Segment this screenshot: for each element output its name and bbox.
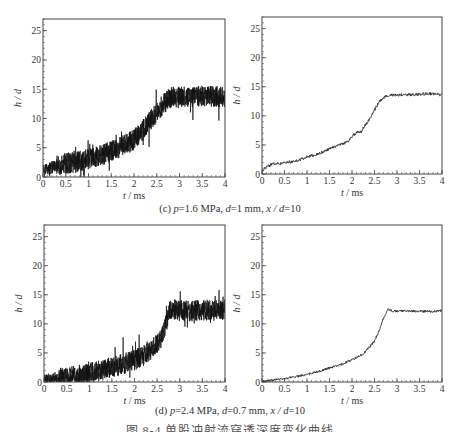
- x-tick-label: 2: [132, 179, 137, 189]
- plot-frame: [262, 225, 442, 382]
- y-tick-label: 5: [36, 143, 41, 153]
- chart-c-filtered: 00.511.522.533.540510152025t / msh / d: [230, 0, 460, 200]
- y-tick-label: 20: [33, 261, 43, 271]
- x-axis-label: t / ms: [123, 190, 145, 200]
- caption-c-p-value: =1.6 MPa,: [179, 203, 226, 214]
- y-tick-label: 25: [251, 232, 261, 242]
- caption-d-p-value: =2.4 MPa,: [175, 405, 222, 416]
- x-tick-label: 0: [260, 176, 265, 186]
- x-tick-label: 3.5: [414, 384, 426, 394]
- chart-d-filtered-svg: 00.511.522.533.540510152025t / msh / d: [230, 215, 460, 405]
- x-tick-label: 0: [260, 384, 265, 394]
- x-tick-label: 0.5: [61, 384, 73, 394]
- x-tick-label: 0.5: [60, 179, 72, 189]
- y-tick-label: 0: [37, 378, 42, 388]
- data-series: [262, 92, 442, 171]
- y-tick-label: 25: [251, 24, 261, 34]
- x-tick-label: 3: [177, 179, 182, 189]
- caption-c: (c) p=1.6 MPa, d=1 mm, x / d=10: [0, 203, 460, 214]
- x-tick-label: 0.5: [279, 384, 291, 394]
- y-tick-label: 15: [251, 290, 261, 300]
- x-tick-label: 0.5: [279, 176, 291, 186]
- x-tick-label: 4: [223, 384, 228, 394]
- x-axis-label: t / ms: [341, 187, 363, 198]
- caption-c-xd: x / d: [266, 203, 284, 214]
- y-axis-label: h / d: [13, 294, 24, 313]
- x-tick-label: 1.5: [324, 384, 336, 394]
- chart-d-raw-svg: 00.511.522.533.540510152025t / msh / d: [0, 215, 230, 405]
- x-axis-label: t / ms: [341, 395, 363, 405]
- caption-d: (d) p=2.4 MPa, d=0.7 mm, x / d=10: [0, 405, 460, 416]
- chart-c-raw: 00.511.522.533.540510152025t / msh / d: [0, 0, 230, 200]
- chart-c-filtered-svg: 00.511.522.533.540510152025t / msh / d: [230, 0, 460, 200]
- x-tick-label: 1: [87, 384, 92, 394]
- caption-c-xd-value: =10: [284, 203, 300, 214]
- caption-d-xd-value: =10: [289, 405, 305, 416]
- x-tick-label: 2: [132, 384, 137, 394]
- y-tick-label: 15: [251, 82, 261, 92]
- y-tick-label: 20: [251, 53, 261, 63]
- x-tick-label: 4: [440, 384, 445, 394]
- y-tick-label: 5: [255, 348, 260, 358]
- x-tick-label: 0: [42, 384, 47, 394]
- x-tick-label: 2.5: [369, 384, 381, 394]
- x-tick-label: 2: [350, 384, 355, 394]
- x-tick-label: 4: [223, 179, 228, 189]
- x-tick-label: 2.5: [151, 179, 163, 189]
- figure-title: 图 8-4 单股冲射流穿透深度变化曲线: [0, 421, 460, 432]
- x-tick-label: 1: [305, 176, 310, 186]
- y-tick-label: 25: [33, 232, 43, 242]
- chart-d-filtered: 00.511.522.533.540510152025t / msh / d: [230, 215, 460, 405]
- x-tick-label: 4: [440, 176, 445, 186]
- x-tick-label: 2: [350, 176, 355, 186]
- caption-c-label: (c): [159, 203, 173, 214]
- x-tick-label: 3: [395, 176, 400, 186]
- y-tick-label: 25: [32, 26, 42, 36]
- x-tick-label: 1.5: [324, 176, 336, 186]
- y-axis-label: h / d: [12, 88, 23, 107]
- chart-d-raw: 00.511.522.533.540510152025t / msh / d: [0, 215, 230, 405]
- y-tick-label: 15: [32, 85, 42, 95]
- y-tick-label: 20: [251, 261, 261, 271]
- x-tick-label: 3.5: [196, 179, 208, 189]
- y-tick-label: 10: [251, 111, 261, 121]
- y-tick-label: 15: [33, 290, 43, 300]
- y-tick-label: 5: [37, 348, 42, 358]
- data-series: [44, 290, 225, 388]
- x-tick-label: 1.5: [106, 384, 118, 394]
- x-tick-label: 1.5: [105, 179, 117, 189]
- y-axis-label: h / d: [231, 294, 242, 313]
- y-tick-label: 10: [32, 114, 42, 124]
- x-axis-label: t / ms: [123, 395, 145, 405]
- chart-c-raw-svg: 00.511.522.533.540510152025t / msh / d: [0, 0, 230, 200]
- x-tick-label: 3: [177, 384, 182, 394]
- y-tick-label: 0: [255, 170, 260, 180]
- x-tick-label: 1: [305, 384, 310, 394]
- data-series: [262, 309, 442, 383]
- x-tick-label: 3: [395, 384, 400, 394]
- caption-d-xd: x / d: [270, 405, 288, 416]
- y-tick-label: 0: [255, 378, 260, 388]
- caption-d-d-value: =0.7 mm,: [227, 405, 270, 416]
- y-axis-label: h / d: [231, 86, 242, 105]
- x-tick-label: 2.5: [151, 384, 163, 394]
- y-tick-label: 5: [255, 140, 260, 150]
- y-tick-label: 10: [251, 319, 261, 329]
- x-tick-label: 0: [41, 179, 46, 189]
- caption-d-label: (d): [155, 405, 170, 416]
- x-tick-label: 1: [86, 179, 91, 189]
- y-tick-label: 10: [33, 319, 43, 329]
- y-tick-label: 0: [36, 173, 41, 183]
- caption-c-d-value: =1 mm,: [231, 203, 266, 214]
- x-tick-label: 2.5: [369, 176, 381, 186]
- x-tick-label: 3.5: [414, 176, 426, 186]
- x-tick-label: 3.5: [196, 384, 208, 394]
- data-series: [43, 86, 225, 180]
- y-tick-label: 20: [32, 55, 42, 65]
